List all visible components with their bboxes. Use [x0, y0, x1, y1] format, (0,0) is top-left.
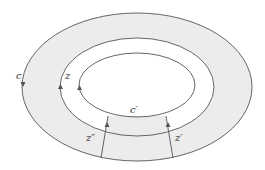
arrow-up-icon: [77, 85, 82, 90]
label-z-prime: z′: [174, 132, 183, 143]
label-z: z: [64, 70, 71, 81]
label-z-double-prime: z″: [85, 132, 95, 143]
label-c-prime: c′: [130, 104, 139, 115]
annulus-diagram: c z c′ z″ z′: [0, 0, 265, 170]
label-c: c: [16, 70, 22, 81]
